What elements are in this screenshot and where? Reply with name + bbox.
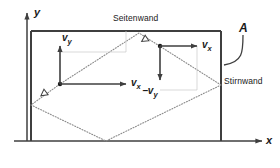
label-y-axis: y: [34, 7, 40, 18]
trajectory-arrow-lower-icon: [39, 89, 48, 98]
label-vx-lower: vx: [131, 78, 141, 91]
area-leader-curve: [224, 35, 243, 65]
label-vy-up-sub: y: [68, 37, 72, 46]
label-stirnwand: Stirnwand: [224, 77, 263, 86]
trajectory-arrow-upper-icon: [140, 35, 149, 44]
label-area-a: A: [239, 22, 248, 34]
label-minus-vy-sub: y: [153, 90, 157, 99]
label-vx-upper-sub: x: [208, 44, 212, 53]
label-seitenwand: Seitenwand: [113, 14, 158, 23]
particle-markers: [58, 44, 162, 86]
label-vy-up: vy: [62, 33, 72, 46]
construction-guides: [60, 31, 197, 90]
area-leader-line: [224, 35, 243, 65]
label-vx-lower-sub: x: [137, 82, 141, 91]
label-x-axis: x: [266, 135, 272, 146]
diagram-canvas: Seitenwand Stirnwand y x A vy vx vx −vy: [0, 0, 280, 168]
label-minus-vy-down: −vy: [142, 86, 158, 99]
label-vx-upper: vx: [202, 40, 212, 53]
